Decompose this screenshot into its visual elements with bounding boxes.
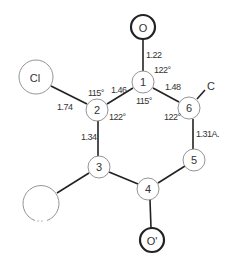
bond-length-1-2: 1.46 [111, 85, 127, 95]
atom-3-label: 3 [96, 161, 102, 173]
atom-2-label: 2 [94, 104, 100, 116]
atom-4-label: 4 [145, 183, 151, 195]
bond-length-2-3: 1.34 [81, 132, 97, 142]
angle-o-1-c6: 122° [154, 65, 172, 75]
atom-labels: O 1 2 Cl 6 C 5 3 4 O' [30, 22, 215, 247]
atom-cl-label: Cl [30, 72, 40, 84]
bond-4-op [150, 200, 151, 228]
bond-length-2-cl: 1.74 [57, 102, 73, 112]
atom-c-label: C [207, 80, 215, 92]
atom-6-label: 6 [186, 102, 192, 114]
bond-length-1-6: 1.48 [165, 82, 181, 92]
bonds [51, 39, 205, 228]
bond-4-5 [158, 166, 185, 183]
atom-x-circle [23, 186, 59, 221]
atom-o-label: O [139, 22, 148, 34]
angle-cl-2-c1: 115° [88, 88, 105, 98]
atom-1-label: 1 [140, 76, 146, 88]
bond-3-4 [109, 172, 138, 184]
bond-3-x [57, 173, 89, 193]
atoms [19, 15, 205, 252]
atom-5-label: 5 [191, 154, 197, 166]
angle-c1-2-c3: 122° [109, 112, 127, 122]
bond-6-c [197, 90, 205, 99]
bond-length-6-5: 1.31A. [196, 129, 219, 139]
angle-c2-1-c6: 115° [136, 96, 153, 106]
bond-length-o-1: 1.22 [146, 50, 162, 60]
angle-c1-6-c5: 122° [164, 112, 182, 122]
molecule-diagram: O 1 2 Cl 6 C 5 3 4 O' 1.22 1.46 1.48 1.7… [0, 0, 227, 262]
atom-op-label: O' [147, 235, 158, 247]
